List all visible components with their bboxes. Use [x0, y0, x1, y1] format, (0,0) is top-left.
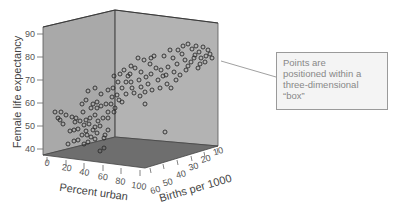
- x-tick-100: 100: [131, 180, 147, 192]
- callout-line-3: three-dimensional: [283, 79, 381, 90]
- y-tick-90: 90: [25, 29, 35, 39]
- y-tick-70: 70: [25, 75, 35, 85]
- x-tick-40: 40: [79, 167, 90, 178]
- y-axis: [37, 34, 43, 149]
- right-wall: [115, 10, 218, 146]
- z-tick-40: 40: [175, 168, 187, 180]
- callout-leader-line: [221, 61, 276, 77]
- z-tick-30: 30: [187, 160, 199, 172]
- z-tick-20: 20: [200, 153, 212, 165]
- x-tick-20: 20: [61, 162, 72, 173]
- y-tick-40: 40: [25, 144, 35, 154]
- x-tick-0: 0: [44, 158, 50, 169]
- x-tick-80: 80: [115, 176, 126, 187]
- y-axis-title: Female life expectancy: [11, 35, 23, 148]
- y-tick-60: 60: [25, 98, 35, 108]
- callout-line-1: Points are: [283, 57, 381, 68]
- callout-line-4: “box”: [283, 90, 381, 101]
- z-tick-10: 10: [212, 145, 224, 157]
- callout-line-2: positioned within a: [283, 68, 381, 79]
- y-tick-80: 80: [25, 52, 35, 62]
- x-tick-60: 60: [97, 171, 108, 182]
- annotation-callout: Points are positioned within a three-dim…: [276, 52, 388, 110]
- y-tick-50: 50: [25, 121, 35, 131]
- z-tick-50: 50: [162, 176, 174, 188]
